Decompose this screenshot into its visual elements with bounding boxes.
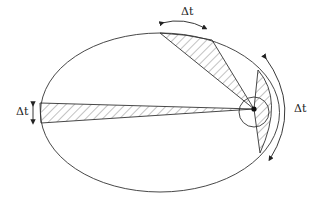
label-right-delta-t: Δt — [294, 102, 306, 115]
arrow-top — [162, 21, 205, 28]
sun-focus-icon — [251, 106, 256, 111]
label-left-delta-t: Δt — [16, 105, 28, 118]
label-top-delta-t: Δt — [181, 5, 193, 18]
wedge-left — [40, 103, 254, 123]
kepler-diagram — [0, 0, 320, 203]
wedge-top — [160, 33, 254, 109]
